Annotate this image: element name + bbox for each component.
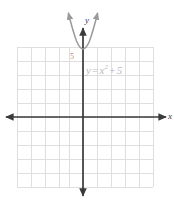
y-intercept-tick-label: 5: [70, 53, 74, 61]
equation-plus: +: [108, 64, 116, 76]
equation-label: y=x2+5: [86, 65, 122, 76]
graph-figure: y x 5 y=x2+5: [0, 0, 174, 200]
equation-equals: =: [91, 64, 99, 76]
y-axis-label: y: [85, 16, 89, 25]
coordinate-plane: [0, 0, 174, 200]
equation-constant: 5: [117, 64, 123, 76]
x-axis-label: x: [168, 112, 172, 121]
